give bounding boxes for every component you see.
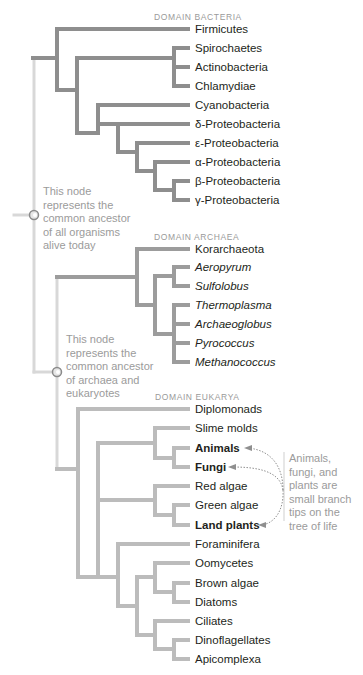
- taxon-archaeoglobus: Archaeoglobus: [195, 317, 272, 331]
- taxon-thermoplasma: Thermoplasma: [195, 298, 272, 312]
- root-node-note: This node represents the common ancestor…: [43, 185, 130, 253]
- taxon-green-algae: Green algae: [195, 498, 258, 512]
- node-highlight: [56, 370, 60, 374]
- taxon-proteobacteria: δ-Proteobacteria: [195, 117, 280, 131]
- taxon-slime-molds: Slime molds: [195, 421, 258, 435]
- node-highlight: [33, 213, 37, 217]
- taxon-korarchaeota: Korarchaeota: [195, 242, 264, 256]
- bacteria-branches: [33, 29, 188, 200]
- archaea-eukarya-node-note: This node represents the common ancestor…: [66, 333, 153, 401]
- taxon-chlamydiae: Chlamydiae: [195, 79, 256, 93]
- taxon-actinobacteria: Actinobacteria: [195, 60, 268, 74]
- arrowhead-icon: [244, 445, 252, 451]
- domain-eukarya-label: DOMAIN EUKARYA: [155, 392, 240, 402]
- taxon-proteobacteria: α-Proteobacteria: [195, 155, 280, 169]
- taxon-proteobacteria: γ-Proteobacteria: [195, 193, 279, 207]
- taxon-pyrococcus: Pyrococcus: [195, 336, 254, 350]
- taxon-diplomonads: Diplomonads: [195, 402, 262, 416]
- taxon-methanococcus: Methanococcus: [195, 355, 276, 369]
- taxon-sulfolobus: Sulfolobus: [195, 279, 249, 293]
- taxon-red-algae: Red algae: [195, 479, 247, 493]
- taxon-land-plants: Land plants: [195, 518, 260, 532]
- taxon-animals: Animals: [195, 441, 240, 455]
- taxon-proteobacteria: β-Proteobacteria: [195, 174, 280, 188]
- domain-bacteria-label: DOMAIN BACTERIA: [154, 12, 242, 22]
- taxon-ciliates: Ciliates: [195, 614, 233, 628]
- taxon-proteobacteria: ε-Proteobacteria: [195, 136, 279, 150]
- eukarya-branches: [57, 409, 188, 659]
- taxon-diatoms: Diatoms: [195, 595, 237, 609]
- domain-archaea-label: DOMAIN ARCHAEA: [154, 232, 239, 242]
- taxon-cyanobacteria: Cyanobacteria: [195, 98, 269, 112]
- taxon-dinoflagellates: Dinoflagellates: [195, 633, 270, 647]
- taxon-foraminifera: Foraminifera: [195, 537, 260, 551]
- taxon-brown-algae: Brown algae: [195, 576, 259, 590]
- dotted-arrow-animals: [248, 448, 283, 490]
- taxon-spirochaetes: Spirochaetes: [195, 41, 262, 55]
- taxon-firmicutes: Firmicutes: [195, 22, 248, 36]
- small-branch-tips-callout: Animals, fungi, and plants are small bra…: [289, 452, 351, 533]
- taxon-oomycetes: Oomycetes: [195, 556, 253, 570]
- phylogenetic-tree: [0, 0, 363, 675]
- root-branches: [14, 58, 57, 469]
- taxon-apicomplexa: Apicomplexa: [195, 652, 261, 666]
- taxon-aeropyrum: Aeropyrum: [195, 260, 251, 274]
- arrowhead-icon: [228, 464, 236, 470]
- dotted-arrow-land-plants: [262, 490, 283, 525]
- taxon-fungi: Fungi: [195, 460, 226, 474]
